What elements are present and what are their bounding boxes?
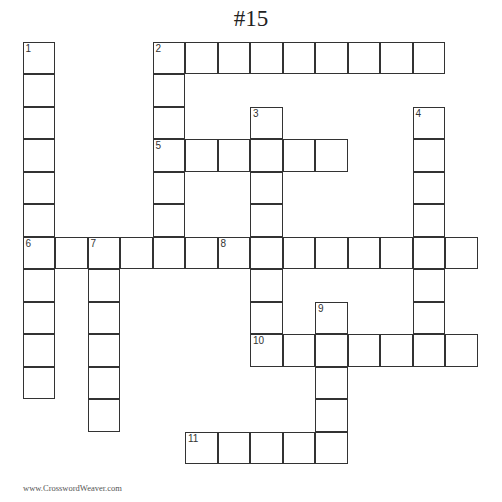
clue-number: 2 [156, 44, 162, 54]
grid-cell[interactable] [250, 42, 283, 75]
grid-cell[interactable] [88, 302, 121, 335]
grid-cell[interactable] [315, 399, 348, 432]
grid-cell[interactable] [283, 139, 316, 172]
grid-cell[interactable]: 3 [250, 107, 283, 140]
grid-cell[interactable]: 4 [413, 107, 446, 140]
grid-cell[interactable] [185, 237, 218, 270]
grid-cell[interactable] [380, 237, 413, 270]
grid-cell[interactable] [153, 237, 186, 270]
footer-credit: www.CrosswordWeaver.com [23, 483, 122, 493]
grid-cell[interactable] [250, 237, 283, 270]
clue-number: 10 [253, 336, 264, 346]
grid-cell[interactable] [23, 107, 56, 140]
clue-number: 8 [221, 239, 227, 249]
clue-number: 3 [253, 109, 259, 119]
grid-cell[interactable] [315, 139, 348, 172]
grid-cell[interactable] [348, 334, 381, 367]
grid-cell[interactable] [23, 204, 56, 237]
grid-cell[interactable]: 6 [23, 237, 56, 270]
puzzle-title: #15 [0, 6, 502, 32]
grid-cell[interactable] [413, 302, 446, 335]
grid-cell[interactable] [348, 42, 381, 75]
grid-cell[interactable] [153, 107, 186, 140]
grid-cell[interactable] [250, 269, 283, 302]
grid-cell[interactable] [88, 399, 121, 432]
grid-cell[interactable] [413, 172, 446, 205]
grid-cell[interactable] [185, 139, 218, 172]
grid-cell[interactable] [250, 302, 283, 335]
grid-cell[interactable] [23, 269, 56, 302]
grid-cell[interactable] [23, 367, 56, 400]
grid-cell[interactable] [250, 432, 283, 465]
grid-cell[interactable]: 2 [153, 42, 186, 75]
grid-cell[interactable] [55, 237, 88, 270]
grid-cell[interactable] [218, 432, 251, 465]
grid-cell[interactable] [218, 139, 251, 172]
grid-cell[interactable]: 9 [315, 302, 348, 335]
grid-cell[interactable]: 5 [153, 139, 186, 172]
grid-cell[interactable]: 1 [23, 42, 56, 75]
grid-cell[interactable] [23, 139, 56, 172]
grid-cell[interactable] [120, 237, 153, 270]
grid-cell[interactable] [380, 334, 413, 367]
grid-cell[interactable]: 10 [250, 334, 283, 367]
grid-cell[interactable] [250, 139, 283, 172]
grid-cell[interactable] [315, 432, 348, 465]
clue-number: 11 [188, 434, 198, 444]
clue-number: 4 [416, 109, 422, 119]
grid-cell[interactable]: 11 [185, 432, 218, 465]
clue-number: 6 [26, 239, 32, 249]
grid-cell[interactable] [283, 334, 316, 367]
grid-cell[interactable] [23, 302, 56, 335]
grid-cell[interactable] [88, 334, 121, 367]
grid-cell[interactable] [413, 334, 446, 367]
grid-cell[interactable] [250, 172, 283, 205]
grid-cell[interactable] [380, 42, 413, 75]
grid-cell[interactable] [413, 269, 446, 302]
grid-cell[interactable] [445, 334, 478, 367]
grid-cell[interactable] [185, 42, 218, 75]
grid-cell[interactable] [445, 237, 478, 270]
grid-cell[interactable] [348, 237, 381, 270]
grid-cell[interactable] [250, 204, 283, 237]
grid-cell[interactable] [283, 237, 316, 270]
grid-cell[interactable] [218, 42, 251, 75]
grid-cell[interactable] [315, 42, 348, 75]
grid-cell[interactable] [413, 204, 446, 237]
grid-cell[interactable] [315, 334, 348, 367]
grid-cell[interactable]: 8 [218, 237, 251, 270]
clue-number: 5 [156, 141, 162, 151]
grid-cell[interactable] [315, 237, 348, 270]
grid-cell[interactable] [413, 42, 446, 75]
grid-cell[interactable] [23, 334, 56, 367]
grid-cell[interactable] [153, 204, 186, 237]
clue-number: 9 [318, 304, 324, 314]
grid-cell[interactable]: 7 [88, 237, 121, 270]
grid-cell[interactable] [413, 237, 446, 270]
grid-cell[interactable] [23, 74, 56, 107]
grid-cell[interactable] [88, 269, 121, 302]
clue-number: 7 [91, 239, 97, 249]
grid-cell[interactable] [283, 432, 316, 465]
grid-cell[interactable] [88, 367, 121, 400]
clue-number: 1 [26, 44, 32, 54]
grid-cell[interactable] [23, 172, 56, 205]
grid-cell[interactable] [413, 139, 446, 172]
grid-cell[interactable] [153, 74, 186, 107]
grid-cell[interactable] [315, 367, 348, 400]
grid-cell[interactable] [153, 172, 186, 205]
grid-cell[interactable] [283, 42, 316, 75]
